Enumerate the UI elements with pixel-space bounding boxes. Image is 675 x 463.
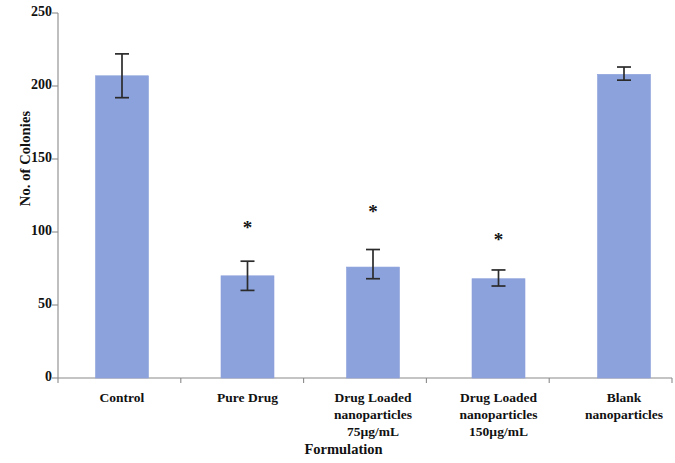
x-axis-tick-label: Pure Drug bbox=[186, 389, 310, 406]
x-axis-tick-label-line: Control bbox=[60, 389, 184, 406]
x-axis-tick-label-line: Blank bbox=[562, 389, 675, 406]
significance-asterisk: * bbox=[489, 230, 509, 249]
x-axis-tick-label-line: Drug Loaded bbox=[437, 389, 561, 406]
x-axis-tick-label-line: nanoparticles bbox=[311, 406, 435, 423]
bar bbox=[347, 267, 400, 378]
x-axis-tick-label: Drug Loadednanoparticles150µg/mL bbox=[437, 389, 561, 440]
significance-asterisk: * bbox=[363, 202, 383, 221]
bar bbox=[598, 74, 651, 378]
significance-asterisk: * bbox=[238, 218, 258, 237]
x-axis-tick-label-line: 75µg/mL bbox=[311, 423, 435, 440]
x-axis-tick-label-line: nanoparticles bbox=[437, 406, 561, 423]
x-axis-tick-label-line: Pure Drug bbox=[186, 389, 310, 406]
x-axis-tick-labels: ControlPure DrugDrug Loadednanoparticles… bbox=[0, 384, 675, 444]
bar bbox=[96, 76, 149, 378]
x-axis-title-text: Formulation bbox=[304, 441, 382, 457]
x-axis-title: Formulation bbox=[0, 441, 675, 458]
x-axis-tick-label: Blanknanoparticles bbox=[562, 389, 675, 423]
x-axis-tick-label: Control bbox=[60, 389, 184, 406]
x-axis-tick-label: Drug Loadednanoparticles75µg/mL bbox=[311, 389, 435, 440]
bar-chart: No. of Colonies 050100150200250 ControlP… bbox=[0, 0, 675, 463]
x-axis-tick-label-line: 150µg/mL bbox=[437, 423, 561, 440]
x-axis-tick-label-line: nanoparticles bbox=[562, 406, 675, 423]
bar bbox=[472, 279, 525, 378]
x-axis-tick-label-line: Drug Loaded bbox=[311, 389, 435, 406]
